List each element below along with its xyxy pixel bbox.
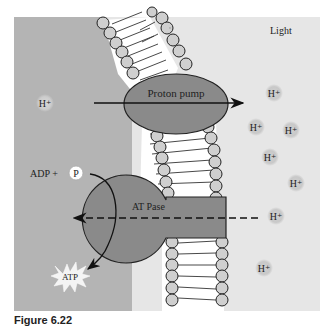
chloroplast-membrane-diagram: Proton pump AT Pase ADP + P ATP Light H⁺…	[0, 0, 335, 327]
phosphate: P	[69, 166, 83, 180]
figure-caption: Figure 6.22	[14, 314, 72, 326]
light-label: Light	[270, 25, 292, 36]
proton-label: H⁺	[285, 125, 298, 136]
adp-label: ADP +	[30, 168, 58, 179]
proton-label: H⁺	[268, 88, 281, 99]
proton-label: H⁺	[250, 122, 263, 133]
proton-label: H⁺	[39, 98, 52, 109]
proton-label: H⁺	[258, 263, 271, 274]
proton-label: H⁺	[270, 211, 283, 222]
phosphate-label: P	[73, 168, 79, 179]
atp-label: ATP	[62, 272, 78, 282]
protons-stroma: H⁺	[36, 94, 54, 112]
proton-label: H⁺	[290, 178, 303, 189]
proton-pump-label: Proton pump	[147, 87, 205, 99]
proton-label: H⁺	[264, 152, 277, 163]
atpase-label: AT Pase	[132, 201, 165, 212]
